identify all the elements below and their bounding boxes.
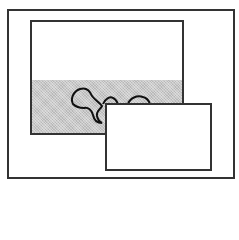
overlap-rectangle (105, 103, 212, 171)
large-blob (72, 88, 102, 123)
